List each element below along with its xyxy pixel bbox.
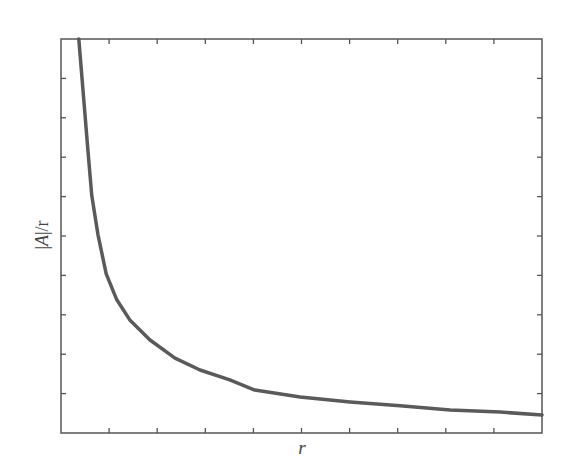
x-axis-label: r [298, 437, 305, 459]
y-label-abs-left: | [32, 246, 52, 250]
plot-frame [61, 39, 542, 433]
y-label-variable: A [32, 235, 52, 246]
chart-canvas [0, 0, 573, 472]
y-axis-label: |A|/r [32, 220, 53, 249]
axis-ticks [61, 39, 542, 433]
data-series-line [79, 39, 542, 415]
y-label-suffix: |/r [32, 220, 52, 235]
